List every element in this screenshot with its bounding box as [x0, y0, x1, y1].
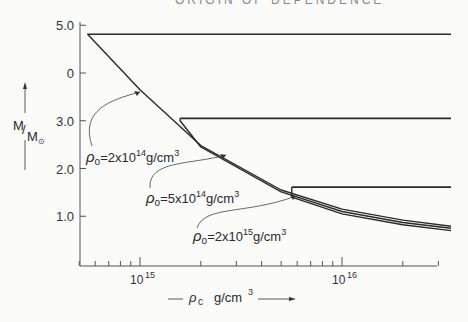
x-tick-label: 10	[332, 273, 346, 287]
y-tick-label: 0	[67, 66, 74, 81]
series-lines	[88, 34, 451, 230]
series-annotation: ρo=2x1015g/cm3	[192, 227, 286, 246]
x-tick-label: 10	[130, 273, 144, 287]
y-tick-label: 1.0	[56, 209, 74, 224]
svg-text:15: 15	[145, 270, 155, 280]
series-annotation: ρo=2x1014g/cm3	[85, 148, 179, 167]
y-tick-label: 2.0	[56, 162, 74, 177]
series-annotation: ρo=5x1014g/cm3	[145, 189, 239, 208]
x-axis-label: ρ c g/cm 3	[168, 287, 296, 307]
svg-text:16: 16	[347, 270, 357, 280]
svg-text:M: M	[27, 129, 38, 144]
svg-text:ρ: ρ	[188, 290, 197, 305]
svg-text:⊙: ⊙	[38, 137, 45, 146]
svg-text:3: 3	[248, 287, 253, 297]
mass-curve	[180, 118, 451, 228]
x-ticks: 10151016	[79, 257, 438, 287]
svg-text:/: /	[22, 122, 26, 137]
y-tick-label: 3.0	[56, 114, 74, 129]
y-axis-label: M / M ⊙	[13, 82, 45, 170]
svg-text:c: c	[198, 296, 203, 307]
y-tick-label: 5.0	[56, 18, 74, 33]
mass-curve	[88, 34, 451, 226]
mass-curve	[292, 187, 451, 230]
series-annotations: ρo=2x1014g/cm3ρo=5x1014g/cm3ρo=2x1015g/c…	[85, 91, 296, 246]
mass-density-chart: 5.003.02.01.0 10151016 M / M ⊙ ρ c g/cm …	[0, 0, 468, 322]
svg-text:g/cm: g/cm	[214, 290, 242, 305]
y-ticks: 5.003.02.01.0	[56, 18, 86, 224]
